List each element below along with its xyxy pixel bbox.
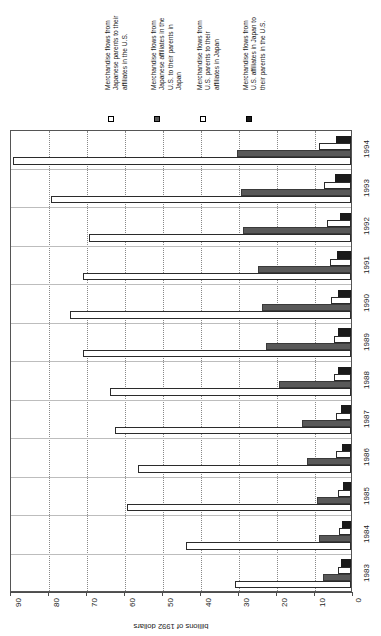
bar — [334, 374, 351, 381]
white-square-icon — [200, 116, 206, 122]
legend-entry: Merchandise flows from U.S. parents to t… — [196, 4, 222, 124]
category-label: 1987 — [360, 404, 374, 433]
bar-group — [11, 170, 351, 209]
bar — [262, 304, 351, 311]
white-square-icon — [108, 116, 114, 122]
bar — [83, 273, 351, 280]
value-axis-title: billions of 1992 dollars — [0, 592, 342, 636]
bar-group — [11, 362, 351, 401]
legend-entry: Merchandise flows from U.S. affiliates i… — [242, 4, 268, 124]
bar — [235, 581, 351, 588]
bar — [327, 220, 351, 227]
bar — [243, 227, 351, 234]
bar — [70, 311, 351, 318]
bar — [266, 343, 352, 350]
bar-group — [11, 285, 351, 324]
bar — [307, 458, 351, 465]
bar — [51, 196, 351, 203]
plot-area — [10, 130, 352, 592]
category-label: 1992 — [360, 212, 374, 241]
gray-square-icon — [154, 116, 160, 122]
legend-entry: Merchandise flows from Japanese affiliat… — [150, 4, 176, 124]
bar — [342, 444, 352, 451]
bar — [127, 504, 351, 511]
legend-entry-label: Merchandise flows from Japanese parents … — [104, 0, 126, 90]
category-label: 1984 — [360, 520, 374, 549]
bar — [336, 451, 351, 458]
bar-group — [11, 208, 351, 247]
bar-group — [11, 131, 351, 170]
bar-group — [11, 555, 351, 594]
category-label: 1994 — [360, 135, 374, 164]
bar — [186, 542, 351, 549]
bar-group — [11, 516, 351, 555]
bar — [338, 567, 351, 574]
bar-group — [11, 478, 351, 517]
bar — [338, 328, 351, 335]
bar — [331, 297, 351, 304]
bar-group — [11, 439, 351, 478]
value-axis-title-label: billions of 1992 dollars — [133, 622, 208, 631]
bar — [302, 420, 351, 427]
bar — [258, 266, 351, 273]
bar — [110, 388, 351, 395]
bar — [335, 174, 351, 181]
bar — [343, 482, 351, 489]
chart-root: Merchandise flows from Japanese parents … — [0, 0, 381, 636]
category-label: 1993 — [360, 173, 374, 202]
bar — [319, 535, 351, 542]
category-label: 1988 — [360, 366, 374, 395]
legend-entry-label: Merchandise flows from Japanese affiliat… — [150, 0, 172, 90]
bar — [115, 427, 351, 434]
bar — [319, 143, 351, 150]
category-label: 1985 — [360, 481, 374, 510]
category-label: 1983 — [360, 558, 374, 587]
bar — [339, 528, 351, 535]
category-label: 1989 — [360, 327, 374, 356]
category-label: 1991 — [360, 250, 374, 279]
category-label: 1986 — [360, 443, 374, 472]
bar — [330, 259, 351, 266]
bar — [324, 182, 351, 189]
bar — [317, 497, 351, 504]
bar — [341, 559, 351, 566]
category-axis: 1994199319921991199019891988198719861985… — [352, 130, 381, 592]
legend-entry: Merchandise flows from Japanese parents … — [104, 4, 130, 124]
category-label: 1990 — [360, 289, 374, 318]
axis-tick-label: 0 — [354, 598, 363, 602]
bar — [237, 150, 351, 157]
bar — [342, 521, 351, 528]
chart-legend: Merchandise flows from Japanese parents … — [0, 0, 381, 128]
bar-group — [11, 324, 351, 363]
bar-group — [11, 401, 351, 440]
legend-entry-label: Merchandise flows from U.S. parents to t… — [196, 0, 218, 90]
bar — [334, 336, 351, 343]
bar — [138, 465, 351, 472]
bar — [83, 350, 351, 357]
bar — [337, 251, 351, 258]
bar — [341, 405, 351, 412]
bar — [279, 381, 351, 388]
axis-tick — [352, 592, 353, 596]
bar — [241, 189, 351, 196]
bar-group — [11, 247, 351, 286]
black-square-icon — [246, 116, 252, 122]
bar — [13, 157, 351, 164]
bar — [336, 413, 351, 420]
bar — [338, 290, 351, 297]
bar — [340, 213, 351, 220]
bar — [338, 490, 351, 497]
legend-entry-label: Merchandise flows from U.S. affiliates i… — [242, 0, 264, 90]
bar — [323, 574, 352, 581]
bar — [336, 136, 351, 143]
bar — [89, 234, 351, 241]
bar — [338, 367, 351, 374]
